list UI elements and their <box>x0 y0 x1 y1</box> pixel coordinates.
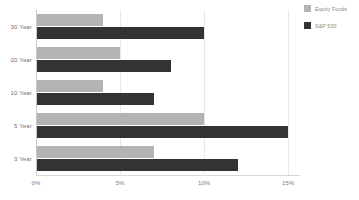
bar-equity-funds[interactable] <box>36 14 103 26</box>
bar-sp-500[interactable] <box>36 27 204 39</box>
bar-group <box>36 113 300 138</box>
legend-swatch-icon <box>304 5 311 12</box>
x-axis-tick-label: 5% <box>105 180 135 186</box>
bar-group <box>36 47 300 72</box>
x-axis-line <box>36 175 300 176</box>
legend-item-sp-500[interactable]: S&P 500 <box>304 20 359 31</box>
bar-group <box>36 14 300 39</box>
bar-equity-funds[interactable] <box>36 80 103 92</box>
bar-sp-500[interactable] <box>36 159 238 171</box>
y-axis-tick-label: 5 Year <box>0 122 32 130</box>
x-axis-labels: 0% 5% 10% 15% <box>0 180 359 194</box>
bar-chart: Equity Funds S&P 500 30 Year 20 Year 10 … <box>0 0 359 200</box>
x-axis-tick-label: 0% <box>21 180 51 186</box>
bar-sp-500[interactable] <box>36 93 154 105</box>
chart-legend: Equity Funds S&P 500 <box>304 3 359 37</box>
bar-group <box>36 80 300 105</box>
y-axis-labels: 30 Year 20 Year 10 Year 5 Year 3 Year <box>0 10 32 175</box>
bar-equity-funds[interactable] <box>36 47 120 59</box>
bar-equity-funds[interactable] <box>36 146 154 158</box>
y-axis-tick-label: 30 Year <box>0 23 32 31</box>
y-axis-line <box>36 10 37 175</box>
x-axis-tick-label: 15% <box>273 180 303 186</box>
y-axis-tick-label: 20 Year <box>0 56 32 64</box>
legend-item-equity-funds[interactable]: Equity Funds <box>304 3 359 14</box>
plot-area <box>36 10 300 175</box>
legend-label: Equity Funds <box>315 6 347 12</box>
x-axis-tick-label: 10% <box>189 180 219 186</box>
y-axis-tick-label: 3 Year <box>0 155 32 163</box>
bar-group <box>36 146 300 171</box>
y-axis-tick-label: 10 Year <box>0 89 32 97</box>
legend-swatch-icon <box>304 22 311 29</box>
bar-sp-500[interactable] <box>36 60 171 72</box>
bar-sp-500[interactable] <box>36 126 288 138</box>
bar-equity-funds[interactable] <box>36 113 204 125</box>
legend-label: S&P 500 <box>315 23 337 29</box>
